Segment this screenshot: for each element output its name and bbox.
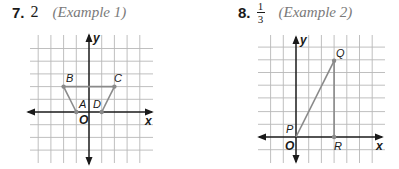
grid — [30, 35, 153, 163]
x-axis-label: x — [375, 139, 384, 153]
graph-problem-7: B C A D O x y — [28, 31, 153, 164]
y-axis-label: y — [299, 33, 308, 47]
point-b — [61, 84, 65, 88]
graph-problem-8: Q P R O x y — [258, 33, 385, 163]
point-q — [332, 59, 336, 63]
label-a: A — [78, 98, 86, 110]
point-c — [112, 84, 116, 88]
label-d: D — [93, 98, 101, 110]
label-b: B — [66, 72, 73, 84]
point-d — [100, 110, 104, 114]
point-r — [332, 135, 336, 139]
grid — [258, 35, 385, 163]
label-q: Q — [336, 47, 345, 59]
origin-label: O — [285, 139, 295, 153]
y-axis-label: y — [92, 31, 101, 45]
label-r: R — [334, 140, 342, 152]
origin-label: O — [79, 113, 89, 127]
label-p: P — [286, 123, 294, 135]
x-axis-label: x — [144, 114, 153, 128]
graphs-canvas: B C A D O x y — [0, 0, 399, 169]
point-a — [74, 110, 78, 114]
label-c: C — [114, 72, 122, 84]
